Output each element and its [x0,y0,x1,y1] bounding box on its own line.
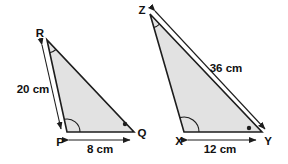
figure-canvas: R P Q 20 cm 8 cm Z X Y 36 cm 12 cm [0,0,288,164]
side-zy-length-label: 36 cm [210,62,243,74]
left-triangle-group: R P Q 20 cm 8 cm [17,27,147,155]
triangle-zxy [150,14,262,132]
side-rp-length-label: 20 cm [17,83,50,95]
base-xy-length-label: 12 cm [204,143,237,155]
vertex-label-q: Q [138,127,147,139]
right-triangle-group: Z X Y 36 cm 12 cm [138,4,272,155]
triangle-rpq [47,40,134,132]
base-pq-length-label: 8 cm [87,143,113,155]
vertex-label-x: X [175,135,183,147]
similar-triangles-figure: R P Q 20 cm 8 cm Z X Y 36 cm 12 cm [0,0,288,164]
vertex-label-r: R [36,27,45,39]
angle-dot-q [123,122,127,126]
vertex-label-z: Z [138,4,145,16]
vertex-label-p: P [56,136,64,148]
vertex-label-y: Y [264,135,272,147]
angle-dot-y [247,126,251,130]
